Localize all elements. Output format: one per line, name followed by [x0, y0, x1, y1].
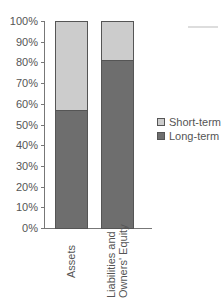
bar-segment-long-term: [102, 60, 133, 228]
legend-label-long-term: Long-term: [169, 130, 219, 142]
bar-liabilities-owners-equity: [101, 21, 134, 229]
y-tick-label: 20%: [0, 181, 38, 193]
bar-segment-short-term: [56, 22, 87, 111]
legend-item-long-term: Long-term: [157, 129, 221, 143]
y-tick-label: 30%: [0, 160, 38, 172]
x-label-liabilities-line1: Liabilities and: [105, 231, 117, 298]
bar-segment-short-term: [102, 22, 133, 61]
y-tick-label: 10%: [0, 201, 38, 213]
short-term-swatch-icon: [157, 118, 165, 126]
y-tick-label: 60%: [0, 98, 38, 110]
y-tick-label: 50%: [0, 119, 38, 131]
y-tick-label: 90%: [0, 36, 38, 48]
stacked-bar-chart: 0%10%20%30%40%50%60%70%80%90%100% Assets…: [0, 0, 223, 298]
legend-item-short-term: Short-term: [157, 115, 221, 129]
legend-label-short-term: Short-term: [169, 116, 221, 128]
y-axis: [44, 21, 45, 229]
x-label-assets: Assets: [65, 245, 77, 278]
y-tick-label: 40%: [0, 139, 38, 151]
x-label-liabilities-line2: Owners' Equity: [117, 224, 129, 298]
y-tick-label: 70%: [0, 77, 38, 89]
y-tick-label: 100%: [0, 15, 38, 27]
legend: Short-term Long-term: [157, 115, 221, 143]
long-term-swatch-icon: [157, 132, 165, 140]
y-tick-label: 0%: [0, 222, 38, 234]
y-tick-label: 80%: [0, 56, 38, 68]
bar-assets: [55, 21, 88, 229]
bar-segment-long-term: [56, 110, 87, 228]
decorative-smudge: [188, 26, 218, 28]
